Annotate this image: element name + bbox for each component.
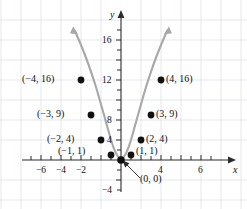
data-point <box>78 77 85 84</box>
point-label-neg4-16: (−4, 16) <box>22 74 54 84</box>
y-tick-label-16: 16 <box>102 36 112 46</box>
curve-arrow-left-icon <box>70 27 78 35</box>
x-tick-label-4: 4 <box>158 166 163 176</box>
y-tick-label-12: 12 <box>102 76 112 86</box>
x-tick-label-neg6: −6 <box>36 166 46 176</box>
y-tick-label-8: 8 <box>107 116 112 126</box>
x-axis-arrow-icon <box>228 157 236 164</box>
y-tick-label-4: 4 <box>107 136 112 146</box>
x-tick-label-neg2: −2 <box>76 166 86 176</box>
point-label-3-9: (3, 9) <box>156 109 178 119</box>
x-tick-label-neg4: −4 <box>56 166 66 176</box>
y-axis-arrow-icon <box>118 10 125 18</box>
data-point <box>98 137 105 144</box>
x-axis-label: x <box>233 165 237 175</box>
data-point <box>88 112 95 119</box>
point-label-origin: (0, 0) <box>140 174 162 184</box>
point-label-2-4: (2, 4) <box>146 134 168 144</box>
point-label-4-16: (4, 16) <box>166 74 193 84</box>
y-axis-ticks <box>116 30 121 190</box>
point-label-neg3-9: (−3, 9) <box>37 109 64 119</box>
data-point <box>148 112 155 119</box>
y-tick-label-neg4: −4 <box>102 186 112 196</box>
origin-callout-arrow-icon <box>123 161 141 179</box>
data-point <box>158 77 165 84</box>
x-tick-label-6: 6 <box>198 166 203 176</box>
point-label-neg1-1: (−1, 1) <box>58 146 85 156</box>
data-point <box>108 152 115 159</box>
data-point <box>128 152 135 159</box>
y-axis-label: y <box>110 10 114 20</box>
data-point <box>138 137 145 144</box>
data-point <box>117 156 125 164</box>
graph-figure: (−4, 16) (−3, 9) (−2, 4) (−1, 1) (0, 0) … <box>0 0 247 209</box>
curve-arrow-right-icon <box>164 27 172 35</box>
point-label-1-1: (1, 1) <box>136 146 158 156</box>
point-label-neg2-4: (−2, 4) <box>47 134 74 144</box>
parabola-plot <box>0 0 247 209</box>
